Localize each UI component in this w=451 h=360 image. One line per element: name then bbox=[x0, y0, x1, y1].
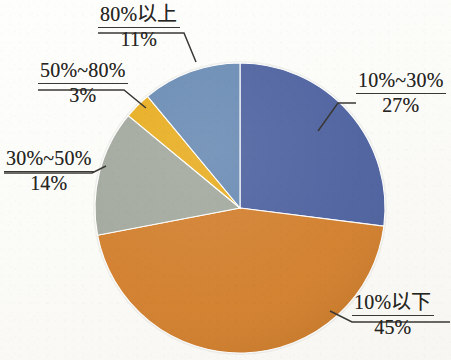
pie-chart-figure: 10%~30% 27% 10%以下 45% 30%~50% 14% 50%~80… bbox=[0, 0, 451, 360]
pie-label-50-80: 50%~80% 3% bbox=[38, 60, 128, 106]
pie-label-30-50-value: 14% bbox=[4, 172, 94, 195]
pie-shading-overlay bbox=[95, 63, 385, 353]
pie-label-under-10-category: 10%以下 bbox=[352, 292, 434, 316]
pie-label-10-30-category: 10%~30% bbox=[356, 70, 446, 94]
pie-label-over-80-category: 80%以上 bbox=[98, 4, 180, 28]
pie-label-10-30: 10%~30% 27% bbox=[356, 70, 446, 116]
pie-label-10-30-value: 27% bbox=[356, 94, 446, 117]
pie-label-50-80-category: 50%~80% bbox=[38, 60, 128, 84]
pie-label-under-10-value: 45% bbox=[352, 316, 434, 339]
pie-label-50-80-value: 3% bbox=[38, 84, 128, 107]
pie-label-under-10: 10%以下 45% bbox=[352, 292, 434, 338]
pie-label-30-50: 30%~50% 14% bbox=[4, 148, 94, 194]
pie-label-30-50-category: 30%~50% bbox=[4, 148, 94, 172]
pie-label-over-80-value: 11% bbox=[98, 28, 180, 51]
pie-label-over-80: 80%以上 11% bbox=[98, 4, 180, 50]
